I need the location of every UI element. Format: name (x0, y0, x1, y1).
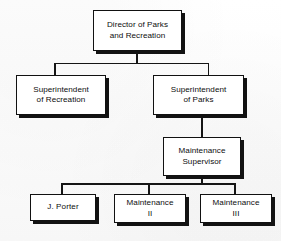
connector-parks-to-supervisor (201, 115, 203, 137)
connector-row3-bus-right (201, 183, 236, 185)
node-superintendent-of-parks[interactable]: Superintendent of Parks (153, 75, 244, 115)
connector-to-supt-parks (208, 63, 210, 76)
connector-to-j-porter (61, 183, 63, 194)
connector-to-maintenance-ii (148, 183, 150, 194)
node-maintenance-iii-label: Maintenance III (210, 198, 263, 219)
node-maintenance-iii[interactable]: Maintenance III (200, 194, 272, 223)
node-maintenance-ii[interactable]: Maintenance II (114, 194, 186, 223)
node-superintendent-of-recreation-label: Superintendent of Recreation (30, 85, 92, 106)
node-maintenance-supervisor[interactable]: Maintenance Supervisor (163, 137, 241, 176)
node-director-label: Director of Parks and Recreation (104, 20, 171, 41)
node-director[interactable]: Director of Parks and Recreation (93, 10, 182, 51)
node-maintenance-ii-label: Maintenance II (124, 198, 177, 219)
org-chart: Director of Parks and Recreation Superin… (0, 0, 281, 241)
node-j-porter[interactable]: J. Porter (30, 194, 96, 221)
node-superintendent-of-recreation[interactable]: Superintendent of Recreation (16, 75, 106, 115)
connector-row3-bus (61, 183, 203, 185)
connector-to-supt-recreation (54, 63, 56, 76)
node-j-porter-label: J. Porter (44, 202, 82, 213)
connector-row1-bus (54, 63, 209, 65)
node-superintendent-of-parks-label: Superintendent of Parks (168, 85, 230, 106)
node-maintenance-supervisor-label: Maintenance Supervisor (176, 146, 229, 167)
